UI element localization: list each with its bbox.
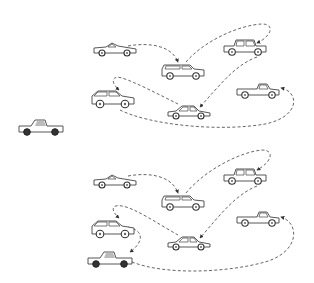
station-wagon-icon: [160, 62, 206, 81]
standalone-pickup-truck-icon: [17, 117, 65, 137]
pickup-truck-icon: [235, 210, 281, 229]
suv-icon: [90, 88, 136, 110]
coupe-icon: [166, 235, 212, 252]
pickup-truck-icon: [235, 82, 281, 101]
suv-icon: [90, 218, 136, 240]
sports-car-icon: [92, 40, 138, 58]
coupe-icon: [166, 104, 212, 121]
pickup-truck-dark-icon: [86, 249, 134, 269]
classic-sedan-icon: [222, 167, 268, 187]
sports-car-icon: [92, 172, 138, 190]
classic-sedan-icon: [222, 38, 268, 58]
station-wagon-icon: [160, 193, 206, 212]
route-diagram-canvas: [0, 0, 314, 283]
